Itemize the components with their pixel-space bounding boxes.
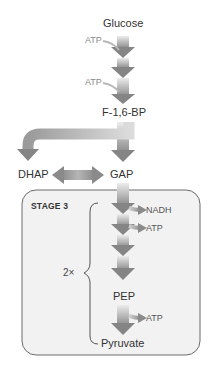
atp-input-label-1: ATP xyxy=(85,36,102,45)
pathway-diagram-graphics xyxy=(0,0,211,369)
atp-input-curve-2 xyxy=(103,83,119,92)
node-glucose: Glucose xyxy=(103,18,143,29)
arrow-glucose-step1 xyxy=(111,36,135,58)
arrow-glucose-step2 xyxy=(111,58,135,78)
atp-input-curve-1 xyxy=(103,41,119,50)
arrow-f16bp-to-dhap xyxy=(28,122,129,150)
nadh-output-label: NADH xyxy=(146,206,172,215)
stage3-box xyxy=(22,190,200,355)
repeat-multiplier: 2× xyxy=(63,268,74,278)
node-gap: GAP xyxy=(110,169,133,180)
stage3-label: STAGE 3 xyxy=(31,201,68,211)
node-pep: PEP xyxy=(113,291,135,302)
atp-input-label-2: ATP xyxy=(85,78,102,87)
node-pyruvate: Pyruvate xyxy=(101,338,144,349)
node-f16bp: F-1,6-BP xyxy=(102,107,146,118)
arrow-dhap-gap-equilibrium xyxy=(52,166,104,184)
atp-output-label-1: ATP xyxy=(146,224,163,233)
node-dhap: DHAP xyxy=(18,169,49,180)
arrow-glucose-step3 xyxy=(111,78,135,104)
atp-output-label-2: ATP xyxy=(146,314,163,323)
